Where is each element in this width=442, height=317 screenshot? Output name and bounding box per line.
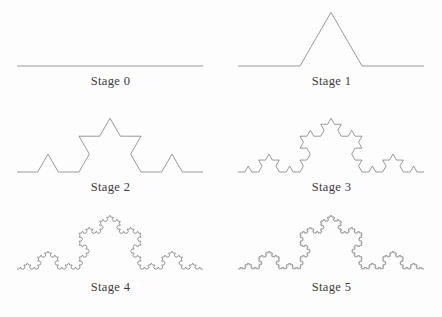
label-stage-2: Stage 2 [0,180,221,195]
panel-stage-5: Stage 5 [221,212,442,317]
koch-path-iteration-5 [238,215,424,269]
koch-path-iteration-1 [238,12,424,66]
koch-curve-svg [0,106,221,212]
label-stage-0: Stage 0 [0,74,221,89]
panel-stage-0: Stage 0 [0,0,221,106]
koch-curve-svg [221,212,442,317]
koch-curve-stage-2 [0,106,221,212]
koch-curve-svg [0,212,221,317]
label-stage-4: Stage 4 [0,280,221,295]
koch-path-iteration-2 [17,118,203,172]
koch-curve-figure: Stage 0Stage 1Stage 2Stage 3Stage 4Stage… [0,0,442,317]
panel-stage-4: Stage 4 [0,212,221,317]
panel-stage-3: Stage 3 [221,106,442,212]
koch-curve-stage-3 [221,106,442,212]
koch-curve-stage-5 [221,212,442,317]
panel-stage-2: Stage 2 [0,106,221,212]
koch-curve-stage-0 [0,0,221,106]
label-stage-1: Stage 1 [221,74,442,89]
koch-curve-stage-1 [221,0,442,106]
koch-path-iteration-3 [238,118,424,172]
label-stage-5: Stage 5 [221,280,442,295]
koch-curve-svg [0,0,221,106]
panel-stage-1: Stage 1 [221,0,442,106]
koch-curve-svg [221,106,442,212]
koch-curve-svg [221,0,442,106]
label-stage-3: Stage 3 [221,180,442,195]
koch-curve-stage-4 [0,212,221,317]
koch-path-iteration-4 [17,215,203,269]
